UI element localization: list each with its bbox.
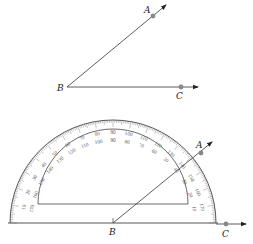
tick [161, 134, 165, 140]
tick [36, 154, 38, 156]
tick [28, 165, 30, 167]
tick [162, 133, 163, 135]
scale-label: 80 [124, 138, 131, 145]
label-a-bottom: A [195, 140, 203, 150]
scale-label: 170 [28, 204, 35, 213]
tick [73, 128, 74, 131]
tick [202, 176, 204, 177]
tick [175, 142, 177, 144]
tick [24, 172, 30, 176]
scale-label: 20 [24, 188, 32, 195]
tick [81, 125, 82, 128]
tick [45, 145, 47, 147]
tick [92, 122, 93, 125]
tick [144, 125, 145, 128]
scale-label: 110 [139, 134, 149, 142]
scale-label: 100 [94, 138, 103, 145]
label-a: A [143, 5, 151, 15]
tick [20, 178, 23, 179]
tick [43, 148, 45, 150]
scale-label: 140 [45, 165, 55, 175]
tick [158, 131, 159, 133]
scale-label: 150 [37, 176, 46, 186]
tick [29, 164, 33, 167]
tick [152, 128, 153, 131]
tick [15, 193, 18, 194]
tick [185, 151, 187, 153]
tick [172, 140, 174, 142]
tick [21, 176, 23, 177]
tick [194, 164, 198, 167]
tick [60, 135, 61, 137]
scale-label: 60 [151, 147, 159, 155]
tick [47, 144, 52, 149]
tick [20, 179, 24, 181]
tick [44, 146, 46, 148]
tick [41, 149, 43, 151]
tick [193, 161, 195, 163]
tick [154, 129, 155, 132]
tick [210, 198, 213, 199]
tick [168, 137, 170, 139]
tick [25, 170, 27, 171]
protractor-inner-scale: 1701601501401301201101009080706050403020… [28, 137, 198, 213]
scale-label: 10 [20, 204, 27, 211]
tick [93, 122, 94, 125]
tick [85, 124, 86, 127]
tick [211, 203, 214, 204]
scale-label: 120 [67, 147, 77, 156]
tick [16, 189, 19, 190]
tick [208, 205, 215, 206]
tick [199, 170, 201, 171]
scale-label: 70 [138, 141, 145, 149]
bottom-angle: A B C [108, 140, 246, 239]
tick [208, 196, 212, 197]
scale-label: 10 [191, 206, 198, 213]
tick [30, 162, 32, 164]
tick [34, 157, 39, 162]
tick [132, 122, 133, 125]
tick [180, 146, 182, 148]
scale-label: 30 [30, 173, 38, 181]
scale-label: 110 [80, 141, 90, 149]
tick [208, 191, 211, 192]
tick [54, 139, 57, 143]
tick [179, 145, 181, 147]
tick [71, 129, 72, 132]
tick [196, 172, 202, 176]
scale-label: 130 [55, 154, 65, 164]
tick [12, 202, 15, 203]
scale-label: 20 [187, 191, 195, 198]
tick [155, 130, 157, 134]
tick [211, 200, 214, 201]
tick [192, 160, 194, 162]
label-b-bottom: B [108, 227, 116, 237]
scale-label: 60 [64, 140, 72, 148]
scale-label: 40 [172, 166, 180, 174]
tick [142, 125, 143, 128]
tick [187, 154, 189, 156]
tick [55, 138, 57, 140]
scale-label: 50 [162, 156, 170, 164]
tick [35, 155, 37, 157]
tick [68, 130, 69, 133]
tick [14, 196, 18, 197]
tick [33, 158, 35, 160]
tick [166, 136, 167, 138]
scale-label: 90 [110, 129, 116, 135]
tick [209, 195, 212, 196]
tick [32, 160, 34, 162]
tick [175, 144, 180, 149]
tick [26, 168, 28, 169]
tick [202, 179, 206, 181]
tick [63, 133, 64, 135]
tick [211, 202, 214, 203]
tick [194, 162, 196, 164]
tick [205, 183, 208, 184]
scale-label: 90 [110, 137, 116, 143]
tick [19, 181, 22, 182]
tick [22, 175, 24, 176]
tick [52, 140, 54, 142]
tick [17, 186, 20, 187]
tick [39, 151, 41, 153]
